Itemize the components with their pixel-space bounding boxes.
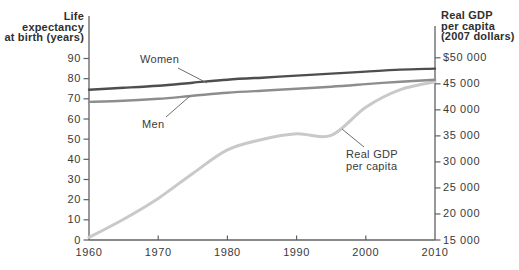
left-axis-tick-label: 50 — [68, 134, 81, 145]
annotation-gdp-label-line: Real GDP — [346, 149, 398, 161]
left-axis-tick-label: 80 — [68, 73, 81, 84]
left-axis-tick-label: 90 — [68, 53, 81, 64]
right-axis-tick-label: 25 000 — [443, 182, 480, 193]
annotation-leader-women — [178, 68, 207, 83]
annotation-men: Men — [142, 119, 164, 131]
annotation-leader-gdp — [342, 129, 364, 147]
x-axis-tick-label: 1980 — [207, 247, 247, 258]
right-axis-tick-label: $50 000 — [443, 52, 487, 63]
left-axis-title-line: Life — [4, 11, 84, 22]
right-axis-tick-label: 45 000 — [443, 78, 480, 89]
left-axis-tick-label: 40 — [68, 154, 81, 165]
left-axis-tick-label: 70 — [68, 93, 81, 104]
right-axis-tick-label: 15 000 — [443, 235, 480, 246]
right-axis-title-line: Real GDP — [441, 10, 515, 21]
right-axis-tick-label: 20 000 — [443, 208, 480, 219]
series-line-women — [89, 69, 435, 90]
annotation-gdp-label-line: per capita — [346, 161, 398, 173]
left-axis-tick-label: 60 — [68, 114, 81, 125]
right-axis-tick-label: 35 000 — [443, 130, 480, 141]
x-axis-tick-label: 1990 — [277, 247, 317, 258]
right-axis-tick-label: 30 000 — [443, 156, 480, 167]
x-axis-tick-label: 1970 — [138, 247, 178, 258]
left-axis-title-line: at birth (years) — [4, 32, 84, 43]
left-axis-tick-label: 10 — [68, 214, 81, 225]
annotation-gdp: Real GDP per capita — [346, 149, 398, 172]
annotation-leader-men — [166, 96, 190, 117]
left-axis-tick-label: 30 — [68, 174, 81, 185]
right-axis-title: Real GDP per capita (2007 dollars) — [441, 10, 515, 42]
x-axis-tick-label: 2010 — [415, 247, 455, 258]
left-axis-tick-label: 20 — [68, 194, 81, 205]
x-axis-tick-label: 1960 — [69, 247, 109, 258]
x-axis-tick-label: 2000 — [346, 247, 386, 258]
left-axis-title: Life expectancy at birth (years) — [4, 11, 84, 43]
annotation-women: Women — [140, 54, 179, 66]
left-axis-tick-label: 0 — [74, 235, 81, 246]
right-axis-tick-label: 40 000 — [443, 104, 480, 115]
annotation-men-label: Men — [142, 118, 164, 130]
life-expectancy-gdp-chart: Life expectancy at birth (years) Real GD… — [0, 0, 519, 270]
right-axis-title-line: (2007 dollars) — [441, 31, 515, 42]
annotation-women-label: Women — [140, 53, 179, 65]
